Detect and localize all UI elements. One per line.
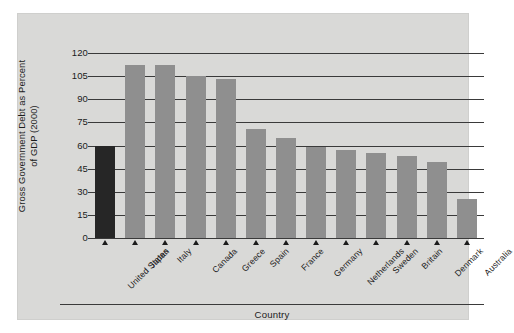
x-axis-rule [60,304,484,305]
x-label-france: France [299,246,326,273]
bar-italy [155,65,175,238]
chart-panel: Gross Government Debt as Percent of GDP … [18,14,468,319]
y-tick-label-75: 75 [77,116,88,127]
y-axis-ticks: 0153045607590105120 [62,53,88,238]
bar-france [276,138,296,238]
x-tick-marker-9 [373,240,379,245]
y-tick-label-30: 30 [77,186,88,197]
bar-netherlands [336,150,356,238]
y-tick-label-0: 0 [83,232,88,243]
plot-area [92,53,484,238]
x-label-canada: Canada [210,246,239,275]
y-tick-label-105: 105 [72,70,88,81]
x-label-japan: Japan [147,246,171,270]
y-tick-label-15: 15 [77,209,88,220]
x-tick-marker-6 [283,240,289,245]
bar-greece [216,79,236,238]
y-axis-title-line2: of GDP (2000) [28,105,39,167]
bar-britain [397,156,417,238]
x-tick-marker-11 [434,240,440,245]
y-tick-label-90: 90 [77,93,88,104]
x-tick-marker-7 [313,240,319,245]
bar-united-states [95,146,115,239]
x-tick-marker-5 [253,240,259,245]
y-tick-label-60: 60 [77,140,88,151]
gridline-75 [92,122,484,123]
x-axis-title: Country [60,309,484,320]
x-axis-category-labels: United StatesJapanItalyCanadaGreeceSpain… [92,246,484,302]
y-tick-label-45: 45 [77,163,88,174]
x-tick-marker-4 [223,240,229,245]
bar-germany [306,147,326,238]
x-tick-marker-3 [193,240,199,245]
bar-japan [125,65,145,238]
bar-spain [246,129,266,238]
x-label-spain: Spain [268,246,291,269]
y-axis-title-line1: Gross Government Debt as Percent [16,60,27,212]
y-tick-label-120: 120 [72,47,88,58]
bar-denmark [427,162,447,238]
x-label-britain: Britain [419,246,444,271]
x-label-greece: Greece [239,246,267,274]
bar-canada [186,76,206,238]
x-label-australia: Australia [482,246,514,278]
y-axis-title: Gross Government Debt as Percent of GDP … [16,38,64,234]
x-tick-marker-2 [162,240,168,245]
x-tick-marker-0 [102,240,108,245]
x-tick-marker-10 [404,240,410,245]
gridline-90 [92,99,484,100]
bar-sweden [366,153,386,238]
x-tick-marker-8 [343,240,349,245]
x-tick-marker-12 [464,240,470,245]
x-tick-marker-1 [132,240,138,245]
x-label-denmark: Denmark [452,246,484,278]
gridline-120 [92,53,484,54]
gridline-105 [92,76,484,77]
x-label-italy: Italy [175,246,194,265]
x-label-germany: Germany [332,246,365,279]
bar-australia [457,199,477,238]
